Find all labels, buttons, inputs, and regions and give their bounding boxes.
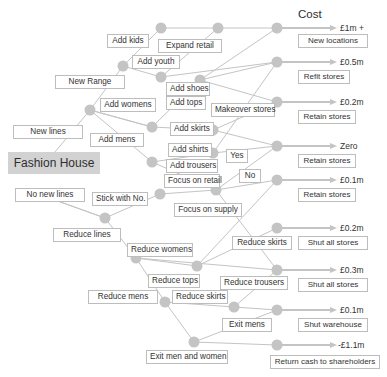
branch-label-no: No (239, 169, 261, 183)
outcome-label-5: Retain stores (298, 188, 356, 202)
branch-label-reduce-mens: Reduce mens (88, 290, 158, 304)
outcome-cost-5: £0.1m (340, 175, 364, 185)
outcome-label-9: Return cash to shareholders (270, 355, 380, 369)
outcome-label-3: Retain stores (298, 110, 356, 124)
branch-label-focus-on-supply: Focus on supply (174, 203, 242, 217)
branch-label-reduce-skirts-lower: Reduce skirts (172, 290, 228, 304)
branch-label-add-mens: Add mens (90, 133, 144, 147)
branch-label-add-shoes: Add shoes (166, 82, 210, 96)
outcome-label-1: New locations (298, 34, 368, 48)
branch-label-reduce-tops: Reduce tops (148, 274, 200, 288)
outcome-label-6: Shut all stores (298, 236, 368, 250)
branch-label-expand-retail: Expand retail (158, 39, 222, 53)
outcome-label-8: Shut warehouse (298, 318, 368, 332)
outcome-cost-1: £1m + (340, 23, 364, 33)
branch-label-reduce-womens: Reduce womens (127, 243, 193, 257)
branch-label-add-youth: Add youth (132, 55, 180, 69)
branch-label-new-range: New Range (55, 75, 125, 89)
branch-label-no-new-lines: No new lines (15, 188, 85, 202)
outcome-cost-9: -£1.1m (338, 340, 364, 350)
branch-label-makeover-stores: Makeover stores (211, 103, 275, 117)
root-node-fashion-house: Fashion House (8, 152, 100, 174)
branch-label-reduce-skirts-upper: Reduce skirts (232, 236, 292, 250)
outcome-cost-8: £0.1m (340, 305, 364, 315)
branch-label-exit-men-and-women: Exit men and women (146, 350, 228, 364)
outcome-cost-3: £0.2m (340, 97, 364, 107)
branch-label-exit-mens: Exit mens (222, 318, 272, 332)
branch-label-add-shirts: Add shirts (168, 143, 212, 157)
outcome-label-2: Refit stores (298, 70, 350, 84)
outcome-label-4: Retain stores (298, 154, 356, 168)
branch-label-reduce-trousers: Reduce trousers (220, 276, 288, 290)
outcome-label-7: Shut all stores (298, 278, 368, 292)
branch-label-add-trousers: Add trousers (166, 159, 218, 173)
branch-label-focus-on-retail: Focus on retail (164, 174, 220, 188)
branch-label-add-tops: Add tops (166, 96, 206, 110)
outcome-cost-7: £0.3m (340, 265, 364, 275)
branch-label-add-skirts: Add skirts (170, 122, 214, 136)
cost-header: Cost (298, 8, 322, 20)
branch-label-add-kids: Add kids (107, 34, 149, 48)
outcome-cost-2: £0.5m (340, 57, 364, 67)
outcome-cost-4: Zero (340, 141, 357, 151)
branch-label-reduce-lines: Reduce lines (53, 228, 121, 242)
branch-label-stick-with-no: Stick with No. (92, 192, 148, 206)
branch-label-new-lines: New lines (13, 125, 83, 139)
branch-label-add-womens: Add womens (100, 98, 156, 112)
outcome-cost-6: £0.2m (340, 223, 364, 233)
branch-label-yes: Yes (226, 149, 248, 163)
